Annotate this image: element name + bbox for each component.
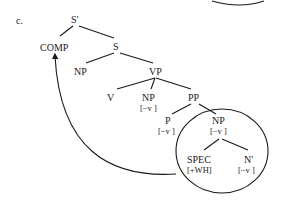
node-s-bar: S' [71,14,79,25]
feature-n-bar: [−v ] [238,165,255,175]
feature-spec: [+WH] [187,165,212,175]
figure-label: c. [16,15,23,26]
node-n-bar: N' [244,154,253,165]
feature-p: [−v ] [158,126,175,136]
node-comp: COMP [40,42,69,53]
node-vp: VP [149,66,162,77]
node-np-pp: NP [212,115,225,126]
node-np-subject: NP [74,66,87,77]
syntax-tree-diagram: c. S' COMP S NP VP V NP [−v ] PP P [−v ]… [0,0,283,204]
node-spec: SPEC [187,154,211,165]
previous-figure-arc [212,1,264,5]
node-np-object: NP [142,92,155,103]
node-p: P [165,115,171,126]
node-s: S [113,41,119,52]
feature-np-object: [−v ] [140,103,157,113]
node-v: V [107,92,115,103]
feature-np-pp: [−v ] [210,126,227,136]
node-pp: PP [188,92,200,103]
